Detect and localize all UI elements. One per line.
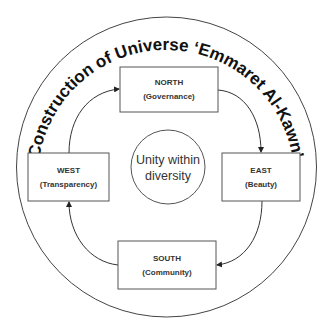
node-north-subtitle: (Governance)	[143, 92, 195, 101]
node-north: NORTH (Governance)	[120, 67, 218, 112]
node-north-box	[120, 67, 218, 112]
node-west: WEST (Transparency)	[28, 153, 109, 201]
node-north-title: NORTH	[155, 78, 184, 87]
node-south-box	[118, 241, 216, 289]
node-west-box	[28, 153, 109, 201]
arrow-east-to-south	[217, 201, 262, 265]
node-east: EAST (Beauty)	[222, 153, 300, 201]
node-west-subtitle: (Transparency)	[40, 180, 98, 189]
node-east-title: EAST	[250, 166, 271, 175]
arrow-north-to-east	[218, 90, 261, 152]
center-circle	[131, 130, 205, 204]
node-south-title: SOUTH	[153, 254, 181, 263]
universe-construction-diagram: Construction of Universe ‘Emmaret Al-Kaw…	[0, 0, 332, 329]
arrow-south-to-west	[69, 202, 118, 265]
node-south: SOUTH (Community)	[118, 241, 216, 289]
center-text-line1: Unity within	[136, 153, 200, 167]
node-east-subtitle: (Beauty)	[245, 180, 277, 189]
node-east-box	[222, 153, 300, 201]
center-text-line2: diversity	[145, 169, 192, 183]
arrow-west-to-north	[69, 89, 119, 153]
node-south-subtitle: (Community)	[142, 268, 192, 277]
node-west-title: WEST	[57, 166, 80, 175]
